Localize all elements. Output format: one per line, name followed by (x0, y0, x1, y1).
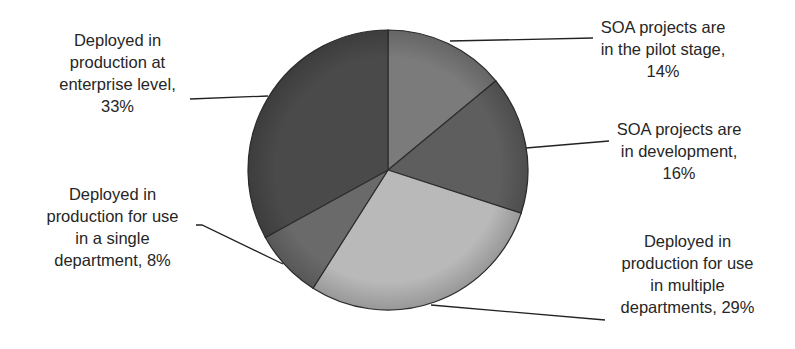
label-line: Deployed in (45, 29, 190, 51)
data-label-single: Deployed in production for use in a sing… (30, 183, 195, 271)
label-line: production for use (30, 205, 195, 227)
label-line: in multiple (605, 274, 770, 296)
label-value: 33% (45, 95, 190, 117)
label-line: in a single (30, 227, 195, 249)
label-line: SOA projects are (609, 118, 749, 140)
label-line: in the pilot stage, (588, 38, 738, 60)
label-value: departments, 29% (605, 296, 770, 318)
leader-line-multiple (431, 305, 605, 320)
leader-line-development (526, 141, 609, 148)
label-value: department, 8% (30, 249, 195, 271)
leader-line-pilot (450, 38, 593, 41)
leader-line-enterprise (190, 96, 268, 99)
label-line: Deployed in (605, 230, 770, 252)
label-line: Deployed in (30, 183, 195, 205)
data-label-enterprise: Deployed in production at enterprise lev… (45, 29, 190, 117)
label-line: production for use (605, 252, 770, 274)
label-line: SOA projects are (588, 16, 738, 38)
data-label-development: SOA projects are in development, 16% (609, 118, 749, 184)
label-value: 16% (609, 162, 749, 184)
pie-edge-shading (248, 30, 528, 310)
data-label-multiple: Deployed in production for use in multip… (605, 230, 770, 318)
data-label-pilot: SOA projects are in the pilot stage, 14% (588, 16, 738, 82)
label-line: production at (45, 51, 190, 73)
label-line: enterprise level, (45, 73, 190, 95)
label-value: 14% (588, 60, 738, 82)
label-line: in development, (609, 140, 749, 162)
